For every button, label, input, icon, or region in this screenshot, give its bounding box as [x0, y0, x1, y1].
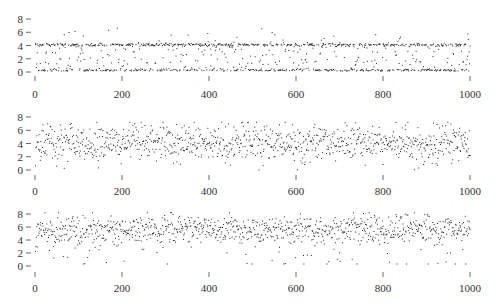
data-points [35, 122, 471, 171]
y-tick-label: 0 [18, 66, 24, 78]
data-points [35, 28, 471, 72]
y-tick-label: 0 [18, 260, 24, 272]
scatter-plot-3: 0246802004006008001000 [0, 195, 496, 303]
x-tick-label: 600 [288, 282, 305, 294]
y-tick-label: 2 [18, 247, 24, 259]
y-tick-label: 6 [18, 124, 24, 136]
x-tick-label: 0 [32, 282, 38, 294]
scatter-plot-1: 0246802004006008001000 [0, 0, 496, 100]
y-tick-label: 8 [18, 111, 24, 123]
y-tick-label: 8 [18, 13, 24, 25]
y-tick-label: 4 [18, 40, 24, 52]
y-tick-label: 6 [18, 26, 24, 38]
y-tick-label: 2 [18, 53, 24, 65]
y-tick-label: 8 [18, 208, 24, 220]
x-tick-label: 800 [375, 282, 392, 294]
y-tick-label: 2 [18, 151, 24, 163]
panel-bottom: 0246802004006008001000 [0, 195, 496, 303]
y-tick-label: 6 [18, 221, 24, 233]
y-tick-label: 4 [18, 138, 24, 150]
scatter-plot-2: 0246802004006008001000 [0, 98, 496, 198]
panel-middle: 0246802004006008001000 [0, 98, 496, 198]
x-tick-label: 400 [201, 282, 218, 294]
x-tick-label: 200 [114, 282, 131, 294]
x-tick-label: 1000 [459, 282, 482, 294]
panel-top: 0246802004006008001000 [0, 0, 496, 100]
y-tick-label: 0 [18, 164, 24, 176]
data-points [35, 212, 471, 264]
y-tick-label: 4 [18, 234, 24, 246]
